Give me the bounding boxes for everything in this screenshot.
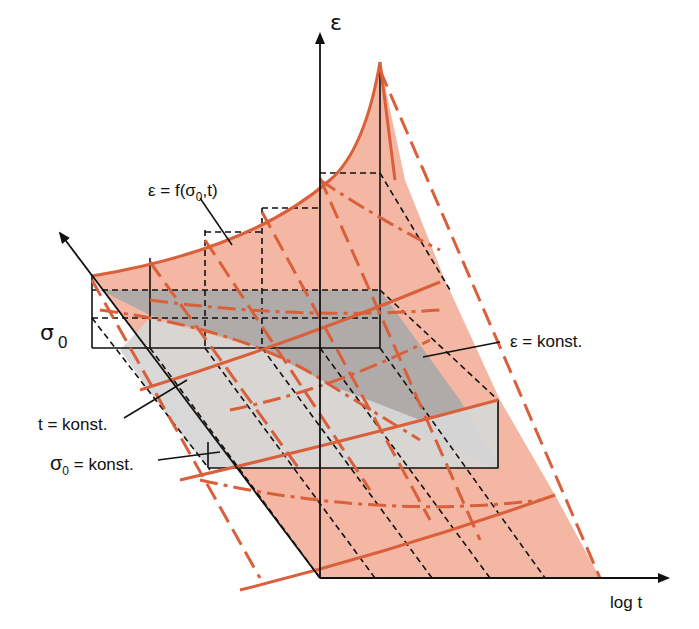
creep-surface-diagram: ε log t σ 0 ε = f(σ0,t) ε = konst. t = k… (0, 0, 699, 629)
time-axis-label: log t (610, 593, 642, 612)
surface-label: ε = f(σ0,t) (148, 181, 218, 204)
eps-const-label: ε = konst. (510, 332, 582, 351)
sigma-axis-subscript: 0 (58, 333, 67, 352)
epsilon-axis-label: ε (330, 10, 342, 35)
sigma-const-label: σ0 = konst. (50, 452, 134, 478)
sigma-axis-label: σ (40, 320, 54, 345)
t-const-label: t = konst. (38, 415, 107, 434)
